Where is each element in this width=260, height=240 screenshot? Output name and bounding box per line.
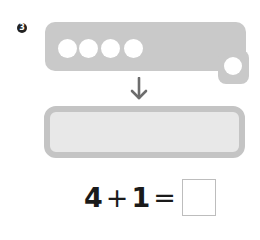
plus-sign: + bbox=[106, 182, 129, 213]
equation-right-operand: 1 bbox=[131, 182, 150, 213]
drawing-answer-box[interactable] bbox=[44, 106, 245, 158]
counter-circle bbox=[124, 39, 143, 58]
equation-left-operand: 4 bbox=[84, 182, 103, 213]
down-arrow-icon bbox=[129, 77, 149, 101]
addition-equation: 4 + 1 = bbox=[84, 178, 216, 216]
extra-counter-circle bbox=[224, 57, 242, 75]
problem-number-badge: 3 bbox=[17, 23, 27, 33]
counter-circle bbox=[79, 39, 98, 58]
equals-sign: = bbox=[153, 182, 176, 213]
counter-circle bbox=[58, 39, 77, 58]
answer-input-box[interactable] bbox=[182, 179, 216, 216]
counter-circle bbox=[101, 39, 120, 58]
